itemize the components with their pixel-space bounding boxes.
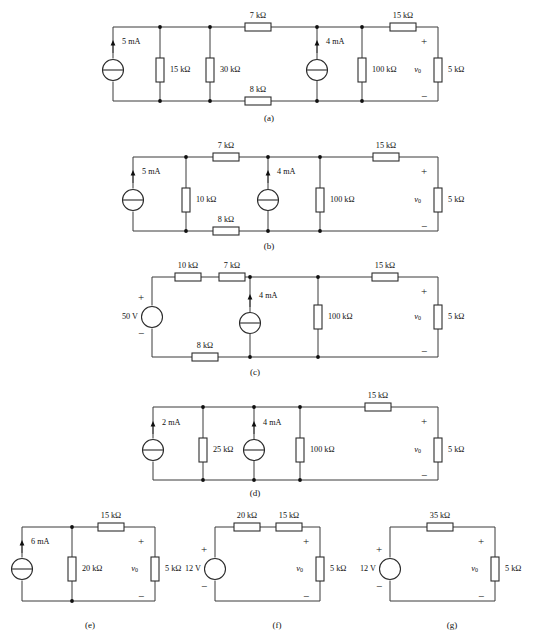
resistor-5k-load[interactable]: 5 kΩ <box>434 305 464 329</box>
voltage-source-12v-minus-sign: − <box>376 580 382 592</box>
resistor-5k-load[interactable]: 5 kΩ <box>434 188 464 212</box>
resistor-30k-shunt-label: 30 kΩ <box>220 65 240 74</box>
resistor-5k-load[interactable]: 5 kΩ <box>491 557 521 581</box>
resistor-30k-shunt[interactable]: 30 kΩ <box>206 58 240 82</box>
voltage-source-50v-body[interactable] <box>142 307 163 328</box>
current-source-4ma-label: 4 mA <box>259 291 278 300</box>
resistor-5k-load-body[interactable] <box>491 557 499 581</box>
resistor-100k-shunt[interactable]: 100 kΩ <box>296 438 335 462</box>
resistor-8k-series-body[interactable] <box>245 97 271 105</box>
d-junction-dot-4 <box>252 478 256 482</box>
d-junction-dot-2 <box>298 405 302 409</box>
resistor-15k-series-body[interactable] <box>276 523 302 531</box>
e-junction-dot-0 <box>70 525 74 529</box>
d-output-voltage-label: v0 <box>414 444 421 454</box>
resistor-10k-series[interactable]: 10 kΩ <box>175 261 201 281</box>
resistor-15k-shunt-body[interactable] <box>156 58 164 82</box>
resistor-15k-series[interactable]: 15 kΩ <box>98 511 124 531</box>
resistor-15k-series[interactable]: 15 kΩ <box>276 511 302 531</box>
resistor-100k-shunt[interactable]: 100 kΩ <box>358 58 397 82</box>
a-junction-dot-4 <box>158 99 162 103</box>
resistor-7k-series-body[interactable] <box>245 23 271 31</box>
voltage-source-12v[interactable]: 12 V+− <box>360 543 401 592</box>
resistor-8k-series-body[interactable] <box>192 353 218 361</box>
resistor-15k-series-body[interactable] <box>98 523 124 531</box>
resistor-7k-series-label: 7 kΩ <box>218 141 234 150</box>
resistor-15k-series-body[interactable] <box>372 273 398 281</box>
resistor-15k-shunt[interactable]: 15 kΩ <box>156 58 190 82</box>
circuit-f: 20 kΩ15 kΩ5 kΩ12 V+−+−v0(f) <box>185 511 346 630</box>
resistor-7k-series[interactable]: 7 kΩ <box>213 141 239 161</box>
resistor-5k-load-label: 5 kΩ <box>448 445 464 454</box>
voltage-source-50v-plus-sign: + <box>138 291 144 303</box>
resistor-10k-shunt-body[interactable] <box>182 188 190 212</box>
resistor-15k-series[interactable]: 15 kΩ <box>373 141 399 161</box>
voltage-source-12v[interactable]: 12 V+− <box>185 543 226 592</box>
resistor-15k-series-body[interactable] <box>365 403 391 411</box>
voltage-source-12v-body[interactable] <box>205 559 226 580</box>
current-source-4ma[interactable]: 4 mA <box>244 418 282 461</box>
resistor-20k-series[interactable]: 20 kΩ <box>234 511 260 531</box>
resistor-15k-series-body[interactable] <box>390 23 416 31</box>
resistor-5k-load[interactable]: 5 kΩ <box>434 58 464 82</box>
resistor-30k-shunt-body[interactable] <box>206 58 214 82</box>
resistor-5k-load-body[interactable] <box>316 557 324 581</box>
current-source-5ma-direction-arrow <box>131 170 136 183</box>
current-source-4ma[interactable]: 4 mA <box>240 291 278 334</box>
resistor-5k-load-body[interactable] <box>434 188 442 212</box>
resistor-15k-series[interactable]: 15 kΩ <box>390 11 416 31</box>
resistor-20k-series-label: 20 kΩ <box>237 511 257 520</box>
resistor-10k-series-label: 10 kΩ <box>178 261 198 270</box>
resistor-15k-series-label: 15 kΩ <box>368 391 388 400</box>
current-source-4ma[interactable]: 4 mA <box>258 167 296 211</box>
resistor-15k-series-label: 15 kΩ <box>393 11 413 20</box>
resistor-100k-shunt-body[interactable] <box>316 188 324 212</box>
resistor-15k-series[interactable]: 15 kΩ <box>365 391 391 411</box>
resistor-7k-series[interactable]: 7 kΩ <box>219 261 245 281</box>
resistor-25k-shunt-body[interactable] <box>199 438 207 462</box>
resistor-15k-series[interactable]: 15 kΩ <box>372 261 398 281</box>
resistor-20k-series-body[interactable] <box>234 523 260 531</box>
a-junction-dot-5 <box>208 99 212 103</box>
b-output-plus-sign: + <box>421 165 427 177</box>
resistor-100k-shunt-body[interactable] <box>314 305 322 329</box>
resistor-5k-load-body[interactable] <box>434 58 442 82</box>
voltage-source-50v[interactable]: 50 V+− <box>122 291 163 339</box>
f-output-voltage-label: v0 <box>296 563 303 573</box>
resistor-10k-shunt[interactable]: 10 kΩ <box>182 188 216 212</box>
resistor-100k-shunt[interactable]: 100 kΩ <box>314 305 353 329</box>
resistor-100k-shunt[interactable]: 100 kΩ <box>316 188 355 212</box>
resistor-8k-series[interactable]: 8 kΩ <box>192 341 218 361</box>
resistor-8k-series[interactable]: 8 kΩ <box>245 85 271 105</box>
resistor-5k-load-body[interactable] <box>434 438 442 462</box>
current-source-4ma-direction-arrow-head <box>248 294 253 300</box>
resistor-10k-series-body[interactable] <box>175 273 201 281</box>
resistor-7k-series-body[interactable] <box>213 153 239 161</box>
resistor-5k-load-body[interactable] <box>151 557 159 581</box>
resistor-35k-series-body[interactable] <box>427 523 453 531</box>
circuit-e: 20 kΩ15 kΩ5 kΩ6 mA+−v0(e) <box>11 511 182 630</box>
resistor-100k-shunt-body[interactable] <box>358 58 366 82</box>
current-source-6ma-direction-arrow <box>20 540 25 553</box>
resistor-100k-shunt-body[interactable] <box>296 438 304 462</box>
current-source-4ma[interactable]: 4 mA <box>307 37 345 81</box>
resistor-8k-series[interactable]: 8 kΩ <box>213 215 239 235</box>
resistor-5k-load[interactable]: 5 kΩ <box>151 557 181 581</box>
resistor-8k-series-body[interactable] <box>213 227 239 235</box>
c-caption: (c) <box>250 367 260 377</box>
resistor-35k-series[interactable]: 35 kΩ <box>427 511 453 531</box>
c-junction-dot-2 <box>248 355 252 359</box>
resistor-15k-series-body[interactable] <box>373 153 399 161</box>
resistor-5k-load[interactable]: 5 kΩ <box>316 557 346 581</box>
resistor-25k-shunt[interactable]: 25 kΩ <box>199 438 233 462</box>
resistor-5k-load-body[interactable] <box>434 305 442 329</box>
voltage-source-12v-body[interactable] <box>380 559 401 580</box>
resistor-7k-series-body[interactable] <box>219 273 245 281</box>
resistor-20k-shunt-body[interactable] <box>68 557 76 581</box>
resistor-100k-shunt-label: 100 kΩ <box>372 65 397 74</box>
circuit-diagram-canvas: 15 kΩ30 kΩ7 kΩ8 kΩ100 kΩ15 kΩ5 kΩ5 mA4 m… <box>0 0 538 642</box>
resistor-20k-shunt[interactable]: 20 kΩ <box>68 557 102 581</box>
resistor-7k-series[interactable]: 7 kΩ <box>245 11 271 31</box>
resistor-5k-load[interactable]: 5 kΩ <box>434 438 464 462</box>
b-junction-dot-2 <box>318 155 322 159</box>
